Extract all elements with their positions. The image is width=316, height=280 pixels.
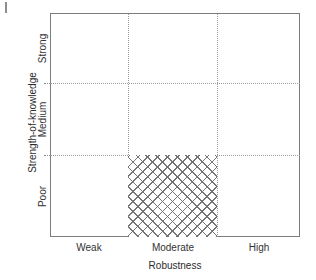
y-axis-tick-label-medium: Medium <box>37 95 48 145</box>
gridline-vertical-moderate-high <box>217 14 218 237</box>
y-axis-tick-label-poor: Poor <box>37 177 48 217</box>
scan-artifact-mark <box>5 2 7 13</box>
gridline-horizontal-strong-medium <box>50 83 300 84</box>
x-axis-title: Robustness <box>105 260 245 271</box>
x-axis-tick-label-weak: Weak <box>59 242 119 253</box>
chart-figure: Strong Medium Poor Weak Moderate High St… <box>0 0 316 280</box>
x-axis-tick-label-moderate: Moderate <box>138 242 208 253</box>
x-axis-tick-label-high: High <box>232 242 286 253</box>
y-axis-tick-label-strong: Strong <box>37 26 48 72</box>
y-axis-title: Strength-of-knowledge <box>27 33 38 213</box>
highlighted-cell-moderate-poor <box>128 155 217 237</box>
y-axis-tick-mark-lower <box>44 155 50 156</box>
y-axis-tick-mark-upper <box>44 83 50 84</box>
